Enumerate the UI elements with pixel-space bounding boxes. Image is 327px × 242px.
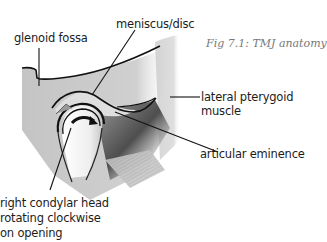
- label-condyle-1: right condylar head: [0, 196, 109, 210]
- label-condyle-2: rotating clockwise: [0, 211, 101, 225]
- label-condyle-3: on opening: [0, 226, 62, 240]
- figure-caption: Fig 7.1: TMJ anatomy: [206, 37, 327, 50]
- label-lateral-pterygoid-1: lateral pterygoid: [201, 90, 293, 104]
- label-lateral-pterygoid-2: muscle: [201, 104, 241, 118]
- label-glenoid-fossa: glenoid fossa: [14, 31, 88, 45]
- label-meniscus-disc: meniscus/disc: [116, 17, 194, 31]
- label-articular-eminence: articular eminence: [200, 147, 305, 161]
